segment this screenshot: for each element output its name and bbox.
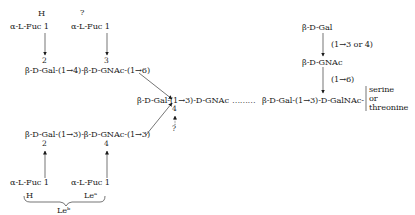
right-top-sugar: β-D-Gal bbox=[302, 22, 332, 32]
right-middle-linkage: (1→6) bbox=[331, 74, 354, 84]
antigen-label-lea: Leᵃ bbox=[84, 190, 97, 200]
right-top-linkage: (1→3 or 4) bbox=[331, 39, 373, 49]
fucose-lea: α-L-Fuc 1 bbox=[71, 177, 110, 187]
link-position-2-bottom: 2 bbox=[42, 139, 47, 149]
fucose-top-middle: α-L-Fuc 1 bbox=[71, 21, 110, 31]
right-main-chain: β-D-Gal-(1→3)-D-GalNAc- bbox=[262, 95, 364, 105]
core-branch-unknown: ? bbox=[172, 124, 176, 134]
fucose-h-top: α-L-Fuc 1 bbox=[10, 21, 49, 31]
core-branch-position: 4 bbox=[172, 104, 177, 114]
antigen-label-leb: Leᵇ bbox=[57, 205, 70, 215]
right-middle-sugar: β-D-GNAc bbox=[302, 57, 342, 67]
core-dots: ……… bbox=[232, 95, 255, 105]
antigen-label-h-bottom: H bbox=[26, 190, 33, 200]
antigen-label-unknown-top: ? bbox=[80, 7, 84, 17]
core-chain: β-D-Gal-(1→3)-D-GNAc bbox=[137, 95, 229, 105]
lower-chain: β-D-Gal-(1→3)-β-D-GNAc-(1→3) bbox=[25, 129, 150, 139]
attachment-threonine: threonine bbox=[369, 102, 408, 112]
antigen-label-h-top: H bbox=[38, 8, 45, 18]
fucose-h-bottom: α-L-Fuc 1 bbox=[10, 177, 49, 187]
connector-lines bbox=[0, 0, 415, 215]
upper-chain: β-D-Gal-(1→4)-β-D-GNAc-(1→6) bbox=[25, 65, 150, 75]
link-position-4-bottom: 4 bbox=[104, 139, 109, 149]
